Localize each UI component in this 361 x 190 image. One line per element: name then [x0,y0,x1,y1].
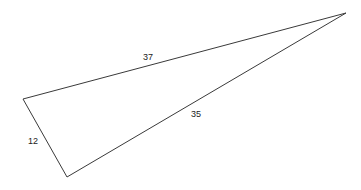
side-label-bottom: 35 [191,109,201,119]
side-label-top: 37 [143,52,153,62]
side-label-left: 12 [28,136,38,146]
triangle-diagram: 37 35 12 [0,0,361,190]
triangle [23,13,346,177]
